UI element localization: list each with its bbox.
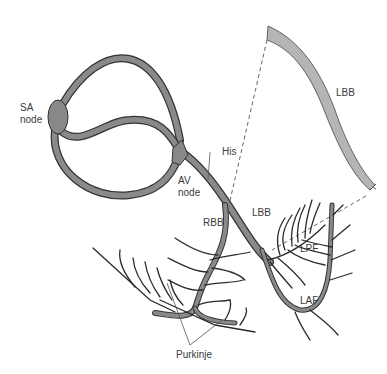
- label-av-node-line2: node: [178, 187, 201, 198]
- label-lbb-inset: LBB: [336, 87, 355, 98]
- label-av-node-line1: AV: [178, 175, 191, 186]
- label-purkinje: Purkinje: [176, 349, 213, 360]
- label-lpf: LPF: [300, 243, 318, 254]
- label-rbb: RBB: [203, 217, 224, 228]
- label-his: His: [222, 146, 236, 157]
- lbb-inset: [267, 26, 376, 190]
- internodal-pathways: [55, 58, 180, 195]
- conduction-system-diagram: SA node AV node His RBB LBB LBB LPF LAF …: [0, 0, 387, 374]
- sa-node: [48, 100, 68, 134]
- label-sa-node-line1: SA: [20, 102, 34, 113]
- label-lbb-main: LBB: [252, 207, 271, 218]
- label-laf: LAF: [300, 295, 318, 306]
- label-sa-node-line2: node: [20, 114, 43, 125]
